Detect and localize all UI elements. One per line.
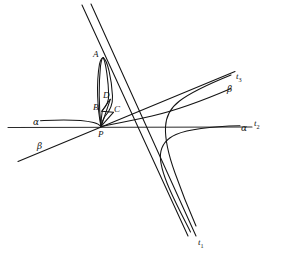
point-label-B: B — [93, 103, 99, 112]
curve-alpha-right-branch — [160, 126, 240, 232]
asymptote-label-t2-sub: 2 — [257, 123, 260, 130]
asymptote-line-t3 — [18, 72, 235, 162]
asymptote-label-t1-sub: 1 — [201, 242, 204, 249]
curve-label-alpha-right: α — [241, 124, 247, 133]
chord-B-to-C — [102, 111, 114, 112]
asymptote-label-t3: t3 — [236, 72, 242, 83]
asymptote-label-t3-sub: 3 — [239, 76, 242, 83]
curve-alpha-left-tail — [44, 120, 101, 126]
curve-label-beta-left: β — [37, 142, 42, 151]
chord-B-to-D — [102, 99, 110, 111]
point-label-P: P — [98, 130, 104, 139]
asymptote-line-t1-companion — [82, 5, 188, 236]
curve-label-alpha-left: α — [33, 118, 39, 127]
asymptote-label-t1: t1 — [198, 238, 204, 249]
point-label-C: C — [114, 105, 120, 114]
curve-label-beta-right: β — [227, 85, 232, 94]
curve-beta-right-branch — [165, 75, 231, 226]
chord-D-to-P — [101, 99, 110, 126]
geometric-figure: A B C D P α α β β t1 t2 t3 — [0, 0, 283, 260]
point-label-D: D — [103, 91, 110, 100]
point-label-A: A — [93, 50, 99, 59]
asymptote-label-t2: t2 — [254, 119, 260, 130]
